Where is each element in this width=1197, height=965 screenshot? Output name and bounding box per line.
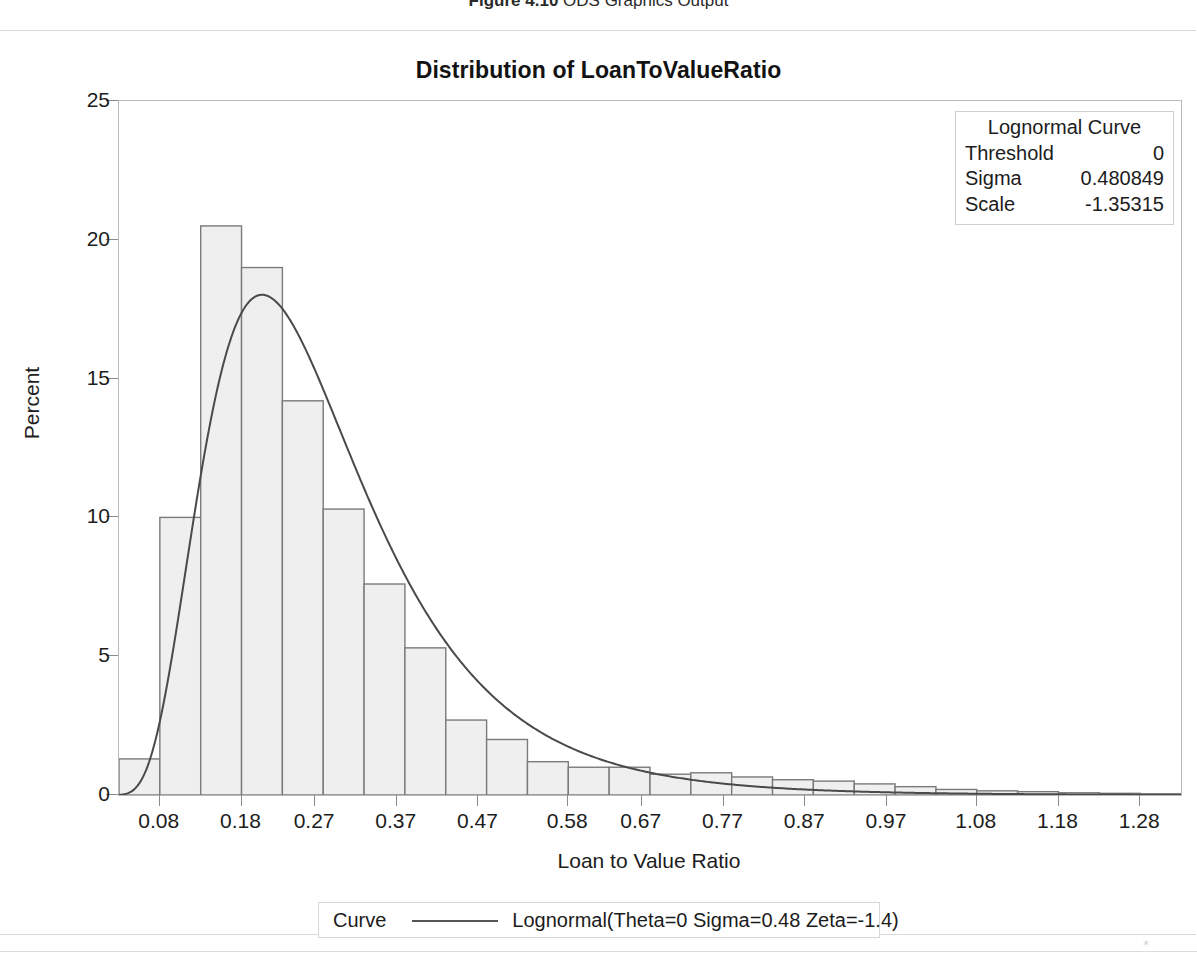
- x-tick-mark: [314, 795, 315, 806]
- histogram-bar: [487, 739, 528, 795]
- x-tick-mark: [241, 795, 242, 806]
- histogram-bar: [242, 268, 283, 795]
- x-tick-label: 0.97: [865, 809, 906, 833]
- y-axis-ticks: 0510152025: [44, 100, 110, 794]
- figure-number: Figure 4.10: [469, 0, 559, 10]
- x-tick-label: 0.77: [702, 809, 743, 833]
- histogram-bar: [364, 584, 405, 795]
- x-tick-mark: [477, 795, 478, 806]
- x-tick-label: 0.47: [457, 809, 498, 833]
- page-caption: Figure 4.10 ODS Graphics Output: [0, 0, 1197, 11]
- x-tick-mark: [396, 795, 397, 806]
- y-axis-title: Percent: [20, 323, 44, 483]
- x-tick-label: 1.08: [955, 809, 996, 833]
- x-tick-label: 1.28: [1119, 809, 1160, 833]
- x-tick-label: 0.58: [547, 809, 588, 833]
- legend-line-swatch-icon: [412, 914, 498, 926]
- histogram-bar: [201, 226, 242, 795]
- x-tick-label: 0.08: [138, 809, 179, 833]
- inset-key-sigma: Sigma: [965, 166, 1022, 191]
- x-tick-label: 0.67: [620, 809, 661, 833]
- y-tick-label: 20: [54, 227, 110, 251]
- y-tick-label: 10: [54, 504, 110, 528]
- histogram-bar: [323, 509, 364, 795]
- legend-entry-label: Lognormal(Theta=0 Sigma=0.48 Zeta=-1.4): [512, 909, 898, 932]
- histogram-bars: [119, 226, 1181, 795]
- x-tick-label: 0.87: [784, 809, 825, 833]
- x-tick-mark: [159, 795, 160, 806]
- x-tick-mark: [641, 795, 642, 806]
- y-tick-label: 25: [54, 88, 110, 112]
- graphic-frame: Distribution of LoanToValueRatio Percent…: [0, 30, 1196, 935]
- x-tick-mark: [1058, 795, 1059, 806]
- inset-row-threshold: Threshold 0: [965, 141, 1164, 166]
- histogram-bar: [119, 759, 160, 795]
- inset-title: Lognormal Curve: [965, 116, 1164, 141]
- inset-key-threshold: Threshold: [965, 141, 1054, 166]
- x-tick-mark: [1139, 795, 1140, 806]
- histogram-bar: [160, 517, 201, 795]
- chart-title: Distribution of LoanToValueRatio: [0, 57, 1197, 84]
- histogram-bar: [527, 762, 568, 795]
- scan-speck: ⁎: [1143, 935, 1156, 947]
- inset-value-scale: -1.35315: [1085, 192, 1164, 217]
- x-tick-mark: [723, 795, 724, 806]
- x-axis-ticks: 0.080.180.270.370.470.580.670.770.870.97…: [118, 795, 1180, 841]
- histogram-bar: [446, 720, 487, 795]
- x-tick-mark: [567, 795, 568, 806]
- histogram-bar: [282, 401, 323, 795]
- x-tick-label: 0.27: [294, 809, 335, 833]
- inset-row-scale: Scale -1.35315: [965, 192, 1164, 217]
- x-tick-label: 0.37: [375, 809, 416, 833]
- inset-key-scale: Scale: [965, 192, 1015, 217]
- y-tick-label: 5: [54, 643, 110, 667]
- x-axis-title: Loan to Value Ratio: [118, 849, 1180, 873]
- figure-caption-text: ODS Graphics Output: [563, 0, 728, 10]
- x-tick-label: 1.18: [1037, 809, 1078, 833]
- legend-group-label: Curve: [319, 909, 386, 932]
- chart-legend: Curve Lognormal(Theta=0 Sigma=0.48 Zeta=…: [318, 902, 880, 938]
- page-bottom-rule: [0, 951, 1197, 952]
- y-tick-label: 15: [54, 366, 110, 390]
- inset-stats-box: Lognormal Curve Threshold 0 Sigma 0.4808…: [955, 111, 1174, 225]
- histogram-bar: [405, 648, 446, 795]
- inset-value-sigma: 0.480849: [1081, 166, 1164, 191]
- histogram-bar: [568, 767, 609, 795]
- inset-value-threshold: 0: [1153, 141, 1164, 166]
- x-tick-mark: [976, 795, 977, 806]
- x-tick-label: 0.18: [220, 809, 261, 833]
- inset-row-sigma: Sigma 0.480849: [965, 166, 1164, 191]
- x-tick-mark: [804, 795, 805, 806]
- histogram-bar: [813, 781, 854, 795]
- y-tick-label: 0: [54, 782, 110, 806]
- x-tick-mark: [886, 795, 887, 806]
